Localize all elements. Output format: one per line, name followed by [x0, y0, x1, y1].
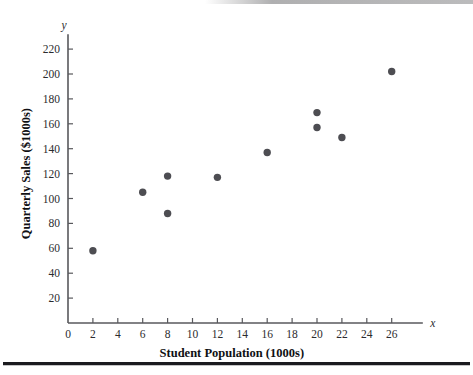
y-tick-label-120: 120	[43, 168, 61, 180]
ticks-group	[68, 49, 392, 323]
x-tick-label-14: 14	[237, 328, 249, 340]
data-point	[164, 210, 171, 217]
x-axis-title: Student Population (1000s)	[160, 346, 304, 360]
tick-labels-group: 0246810121416182022242620406080100120140…	[43, 43, 398, 340]
data-points-group	[89, 68, 395, 255]
x-tick-label-26: 26	[386, 328, 398, 340]
x-tick-label-4: 4	[115, 328, 121, 340]
y-tick-label-180: 180	[43, 93, 61, 105]
data-point	[338, 134, 345, 141]
y-tick-label-20: 20	[49, 292, 61, 304]
y-tick-label-140: 140	[43, 143, 61, 155]
axes-group	[68, 34, 423, 323]
x-tick-label-6: 6	[140, 328, 146, 340]
x-tick-label-10: 10	[187, 328, 199, 340]
x-tick-label-12: 12	[212, 328, 224, 340]
x-tick-label-22: 22	[336, 328, 348, 340]
data-point	[264, 149, 271, 156]
x-tick-label-8: 8	[165, 328, 171, 340]
scatter-plot-figure: 0246810121416182022242620406080100120140…	[0, 0, 473, 360]
data-point	[388, 68, 395, 75]
x-tick-label-0: 0	[65, 328, 71, 340]
x-tick-label-20: 20	[311, 328, 323, 340]
scatter-plot-svg: 0246810121416182022242620406080100120140…	[0, 0, 473, 360]
y-tick-label-100: 100	[43, 193, 61, 205]
x-tick-label-24: 24	[361, 328, 373, 340]
x-tick-label-16: 16	[261, 328, 273, 340]
data-point	[313, 109, 320, 116]
figure-page: 0246810121416182022242620406080100120140…	[0, 0, 473, 375]
x-tick-label-18: 18	[286, 328, 298, 340]
y-axis-symbol: y	[60, 19, 67, 32]
page-bottom-rule-shadow	[3, 365, 470, 366]
y-axis-title: Quarterly Sales ($1000s)	[19, 108, 33, 239]
data-point	[139, 189, 146, 196]
y-tick-label-60: 60	[49, 242, 61, 254]
x-axis-symbol: x	[429, 317, 436, 329]
data-point	[313, 124, 320, 131]
x-tick-label-2: 2	[90, 328, 96, 340]
data-point	[89, 247, 96, 254]
y-tick-label-200: 200	[43, 68, 61, 80]
y-tick-label-160: 160	[43, 118, 61, 130]
data-point	[164, 172, 171, 179]
y-tick-label-80: 80	[49, 217, 61, 229]
y-tick-label-40: 40	[49, 267, 61, 279]
data-point	[214, 174, 221, 181]
y-tick-label-220: 220	[43, 43, 61, 55]
axis-titles-group: yxStudent Population (1000s)Quarterly Sa…	[19, 19, 436, 360]
